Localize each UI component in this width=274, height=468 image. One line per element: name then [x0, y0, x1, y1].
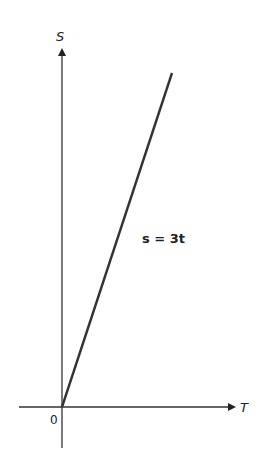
- origin-label: 0: [50, 413, 58, 427]
- distance-time-diagram: S T 0 s = 3t: [0, 0, 274, 468]
- y-axis-label: S: [56, 29, 64, 44]
- x-axis-label: T: [240, 400, 249, 415]
- equation-label: s = 3t: [142, 231, 185, 246]
